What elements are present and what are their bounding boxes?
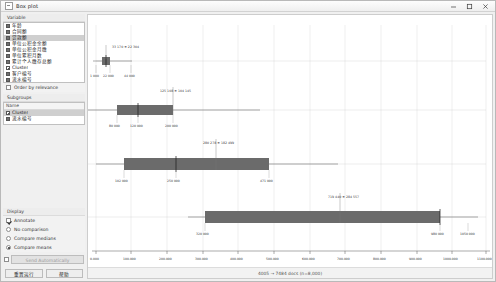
box-annotation-1: 33 170 ± 22 304 [112, 45, 139, 49]
window-title: Box plot [16, 3, 38, 9]
annotate-row[interactable]: Annotate [3, 216, 85, 225]
app-icon [5, 2, 13, 10]
x-tick-label: 200.000 [159, 257, 172, 261]
variable-group-title: Variable [3, 14, 85, 22]
box-tick-label: 250 000 [167, 179, 180, 183]
box-tick-label: 44 000 [124, 74, 135, 78]
x-axis: 0.000 100.000 200.000 300.000 400.000 50… [90, 251, 492, 261]
numeric-variable-icon [6, 78, 10, 82]
box-group-4[interactable]: 719 440 ± 284 557 320 000 980 000 1050 0… [88, 193, 486, 236]
title-bar: Box plot [1, 1, 495, 12]
panel-spacer [3, 127, 85, 206]
order-by-relevance-label: Order by relevance [14, 85, 58, 90]
display-group-title: Display [3, 208, 85, 216]
box-tick-label: 471 000 [260, 179, 273, 183]
numeric-variable-icon [6, 24, 10, 28]
numeric-variable-icon [6, 36, 10, 40]
box-annotation-3: 280 278 ± 182 499 [203, 141, 234, 145]
numeric-variable-icon [6, 60, 10, 64]
reset-run-button[interactable]: 重置运行 [5, 269, 43, 278]
x-tick-label: 1100.000 [477, 257, 492, 261]
status-text: 4005 → 7484 docs (n=8,000) [258, 271, 322, 276]
subgroups-group-title: Subgroups [3, 94, 85, 102]
x-tick-label: 900.000 [409, 257, 422, 261]
no-comparison-radio[interactable] [6, 227, 11, 232]
box-tick-label: 320 000 [196, 232, 209, 236]
compare-means-row[interactable]: Compare means [3, 243, 85, 252]
compare-means-label: Compare means [14, 245, 52, 250]
compare-means-radio[interactable] [6, 245, 11, 250]
window-controls [445, 1, 493, 12]
box-plot-svg: 33 170 ± 22 304 1 000 22 000 44 000 [88, 15, 492, 267]
box-tick-label: 200 000 [165, 124, 178, 128]
compare-medians-label: Compare medians [14, 236, 56, 241]
box-plot-canvas[interactable]: 33 170 ± 22 304 1 000 22 000 44 000 [88, 15, 492, 267]
control-panel: Variable 年龄 合同额 贷款额 [3, 14, 85, 279]
x-tick-label: 700.000 [337, 257, 350, 261]
numeric-variable-icon [6, 30, 10, 34]
subgroups-column-header: Name [4, 103, 84, 110]
numeric-variable-icon [6, 48, 10, 52]
numeric-variable-icon [6, 117, 10, 121]
auto-send-checkbox[interactable] [4, 257, 9, 262]
annotate-label: Annotate [14, 218, 35, 223]
box-tick-label: 102 000 [115, 179, 128, 183]
x-tick-label: 600.000 [302, 257, 315, 261]
subgroups-group: Subgroups Name Cluster 流水编号 [3, 94, 85, 125]
box-group-1[interactable]: 33 170 ± 22 304 1 000 22 000 44 000 [90, 45, 486, 78]
numeric-variable-icon [6, 54, 10, 58]
window-body: Variable 年龄 合同额 贷款额 [1, 12, 495, 281]
minimize-icon[interactable] [445, 1, 461, 12]
auto-send-row[interactable]: Send Automatically [3, 254, 85, 265]
order-by-relevance-row[interactable]: Order by relevance [3, 83, 85, 92]
list-item[interactable]: 流水编号 [4, 116, 84, 122]
order-by-relevance-checkbox[interactable] [6, 85, 11, 90]
box-tick-label: 120 000 [130, 124, 143, 128]
x-tick-label: 1000.000 [443, 257, 458, 261]
box-group-3[interactable]: 280 278 ± 182 499 102 000 250 000 471 00… [88, 139, 486, 183]
help-button[interactable]: 帮助 [46, 269, 84, 278]
box-tick-label: 980 000 [431, 232, 444, 236]
box-annotation-4: 719 440 ± 284 557 [328, 195, 359, 199]
box-tick-label: 1 000 [90, 74, 99, 78]
categorical-variable-icon [6, 111, 10, 115]
plot-panel: 33 170 ± 22 304 1 000 22 000 44 000 [87, 14, 493, 279]
x-tick-label: 0.000 [90, 257, 99, 261]
no-comparison-label: No comparison [14, 227, 49, 232]
box-tick-label: 22 000 [103, 74, 114, 78]
x-tick-label: 100.000 [123, 257, 136, 261]
box-tick-label: 1050 000 [460, 232, 475, 236]
box-plot-window: Box plot Variable 年龄 [0, 0, 496, 282]
compare-medians-radio[interactable] [6, 236, 11, 241]
box-annotation-2: 125 108 ± 104 145 [160, 89, 191, 93]
variable-list[interactable]: 年龄 合同额 贷款额 单位公积金余额 [3, 22, 85, 83]
box-tick-label: 80 000 [109, 124, 120, 128]
box-group-2[interactable]: 125 108 ± 104 145 80 000 120 000 200 000 [88, 87, 486, 128]
display-group: Display Annotate No comparison Compare m… [3, 208, 85, 252]
send-automatically-button[interactable]: Send Automatically [11, 255, 84, 264]
numeric-variable-icon [6, 72, 10, 76]
subgroup-label: 流水编号 [12, 116, 32, 122]
bottom-button-row: 重置运行 帮助 [3, 267, 85, 279]
subgroups-list[interactable]: Name Cluster 流水编号 [3, 102, 85, 125]
variable-group: Variable 年龄 合同额 贷款额 [3, 14, 85, 92]
status-bar: 4005 → 7484 docs (n=8,000) [88, 267, 492, 278]
maximize-icon[interactable] [461, 1, 477, 12]
numeric-variable-icon [6, 42, 10, 46]
x-tick-label: 500.000 [266, 257, 279, 261]
categorical-variable-icon [6, 66, 10, 70]
annotate-checkbox[interactable] [6, 218, 11, 223]
close-icon[interactable] [477, 1, 493, 12]
no-comparison-row[interactable]: No comparison [3, 225, 85, 234]
x-tick-label: 400.000 [230, 257, 243, 261]
x-tick-label: 300.000 [195, 257, 208, 261]
compare-medians-row[interactable]: Compare medians [3, 234, 85, 243]
x-tick-label: 800.000 [373, 257, 386, 261]
